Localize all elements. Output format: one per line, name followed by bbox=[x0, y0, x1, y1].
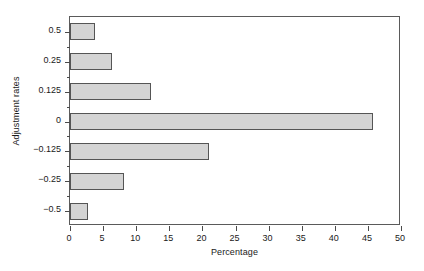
y-tick-minor bbox=[67, 47, 70, 48]
y-tick-label: −0.125 bbox=[1, 144, 61, 154]
y-tick-label: 0 bbox=[1, 115, 61, 125]
x-tick bbox=[368, 226, 369, 231]
y-tick-minor bbox=[67, 166, 70, 167]
y-tick-label: 0.125 bbox=[1, 85, 61, 95]
y-tick-major bbox=[65, 211, 70, 212]
bar-0_125 bbox=[70, 83, 151, 100]
y-tick-minor bbox=[67, 196, 70, 197]
y-tick-minor bbox=[67, 77, 70, 78]
x-tick bbox=[202, 226, 203, 231]
y-tick-major bbox=[65, 181, 70, 182]
y-tick-major bbox=[65, 32, 70, 33]
bar-0_25 bbox=[70, 53, 112, 70]
x-tick bbox=[103, 226, 104, 231]
x-tick bbox=[70, 226, 71, 231]
x-tick bbox=[236, 226, 237, 231]
x-tick bbox=[302, 226, 303, 231]
y-tick-label: 0.5 bbox=[1, 25, 61, 35]
x-tick bbox=[269, 226, 270, 231]
x-tick bbox=[335, 226, 336, 231]
x-tick bbox=[401, 226, 402, 231]
y-tick-major bbox=[65, 151, 70, 152]
plot-inner bbox=[70, 17, 399, 224]
bar-0_5 bbox=[70, 23, 95, 40]
y-tick-major bbox=[65, 122, 70, 123]
bar-neg0_5 bbox=[70, 203, 88, 220]
x-tick bbox=[169, 226, 170, 231]
bar-0 bbox=[70, 113, 373, 130]
y-tick-label: −0.5 bbox=[1, 204, 61, 214]
y-tick-minor bbox=[67, 136, 70, 137]
bar-chart: Adjustment rates Percentage 0.50.250.125… bbox=[0, 0, 424, 271]
x-tick bbox=[136, 226, 137, 231]
bar-neg0_125 bbox=[70, 143, 209, 160]
y-tick-label: 0.25 bbox=[1, 55, 61, 65]
x-tick-label: 50 bbox=[380, 233, 420, 243]
plot-area bbox=[69, 16, 400, 225]
y-tick-major bbox=[65, 92, 70, 93]
y-tick-minor bbox=[67, 107, 70, 108]
y-tick-major bbox=[65, 62, 70, 63]
x-axis-title: Percentage bbox=[69, 247, 400, 257]
bar-neg0_25 bbox=[70, 173, 124, 190]
y-tick-label: −0.25 bbox=[1, 174, 61, 184]
